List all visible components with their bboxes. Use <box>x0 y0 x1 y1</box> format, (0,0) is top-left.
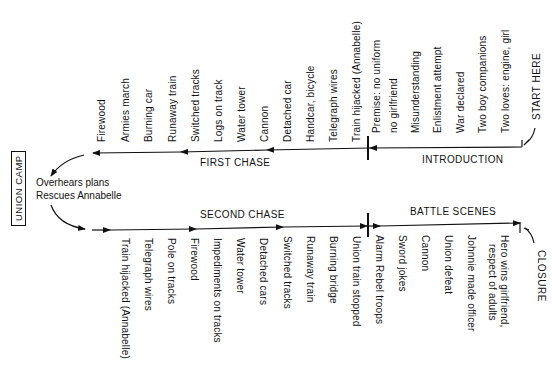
first-chase-item: Telegraph wires <box>328 69 339 142</box>
battle-item: Union defeat <box>443 235 454 294</box>
intro-item: War declared <box>455 72 466 134</box>
first-chase-item: Detached car <box>282 80 293 142</box>
battle-item: Cannon <box>420 235 431 271</box>
intro-item: Two loves: engine, girl <box>500 29 511 133</box>
section-introduction: INTRODUCTION <box>422 154 503 165</box>
section-first-chase: FIRST CHASE <box>200 157 270 168</box>
note-rescues: Rescues Annabelle <box>36 189 122 202</box>
battle-item: respect of adults <box>487 244 498 321</box>
first-chase-item: Firewood <box>96 99 107 142</box>
intro-item: Enlistment attempt <box>432 47 443 133</box>
first-chase-item: Runaway train <box>167 75 178 142</box>
intro-item: Two boy companions <box>477 35 488 133</box>
battle-item: Sword jokes <box>397 235 408 292</box>
second-chase-item: Union train stopped <box>351 236 362 327</box>
battle-item: Alarm Rebel troops <box>374 235 385 324</box>
intro-item-premise-2: no girlfriend <box>388 78 399 133</box>
intro-item: Misunderstanding <box>410 51 421 133</box>
battle-item: Hero wins girlfriend, <box>499 235 510 328</box>
first-chase-item: Train hijacked (Annabelle) <box>351 21 362 142</box>
start-here-label: START HERE <box>531 53 542 120</box>
first-chase-item: Water tower <box>236 86 247 142</box>
first-chase-item: Burning car <box>143 89 154 142</box>
second-chase-item: Train hijacked (Annabelle) <box>120 238 131 359</box>
second-chase-item: Telegraph wires <box>143 238 154 311</box>
story-structure-diagram: UNION CAMP Overhears plans Rescues Annab… <box>0 0 552 377</box>
second-chase-item: Pole on tracks <box>166 238 177 304</box>
second-chase-item: Detached cars <box>258 238 269 305</box>
section-battle-scenes: BATTLE SCENES <box>410 206 496 217</box>
intro-item-premise: Premise: no uniform <box>371 40 382 133</box>
second-chase-item: Firewood <box>189 238 200 281</box>
section-second-chase: SECOND CHASE <box>200 209 285 220</box>
union-camp-notes: Overhears plans Rescues Annabelle <box>36 176 122 202</box>
first-chase-item: Switched tracks <box>190 69 201 142</box>
first-chase-item: Logs on track <box>213 79 224 142</box>
union-camp-label: UNION CAMP <box>13 155 24 221</box>
second-chase-item: Runaway train <box>305 236 316 303</box>
second-chase-item: Burning bridge <box>328 236 339 304</box>
second-chase-item: Impediments on tracks <box>212 238 223 343</box>
second-chase-item: Switched tracks <box>282 236 293 309</box>
first-chase-item: Handcar, bicycle <box>305 65 316 142</box>
first-chase-item: Armies march <box>120 78 131 142</box>
closure-label: CLOSURE <box>536 250 547 302</box>
note-overhears: Overhears plans <box>36 176 122 189</box>
first-chase-item: Cannon <box>259 106 270 142</box>
second-chase-item: Water tower <box>235 238 246 294</box>
battle-item: Johnnie made officer <box>466 235 477 332</box>
